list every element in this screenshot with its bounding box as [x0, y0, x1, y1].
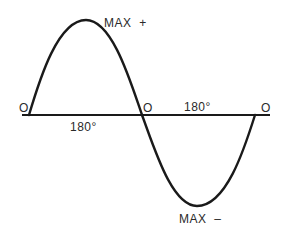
half-cycle-label-second: 180°	[184, 100, 211, 114]
zero-label-right: O	[261, 101, 271, 115]
max-negative-label: MAX –	[179, 212, 221, 226]
positive-half-cycle	[29, 20, 142, 115]
negative-half-cycle	[142, 115, 255, 206]
max-positive-label: MAX +	[104, 16, 147, 30]
zero-label-middle: O	[143, 101, 153, 115]
sine-wave-diagram: O O O 180° 180° MAX + MAX –	[0, 0, 282, 235]
half-cycle-label-first: 180°	[70, 120, 97, 134]
zero-label-left: O	[19, 101, 29, 115]
